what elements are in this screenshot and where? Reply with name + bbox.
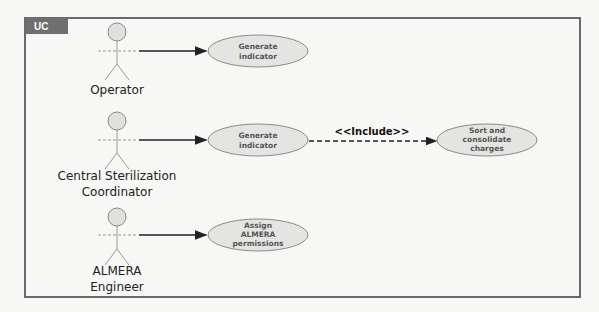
- usecase-text-line: permissions: [233, 239, 285, 248]
- usecase-text-line: indicator: [239, 52, 277, 61]
- actor-label-line-1: ALMERA: [93, 264, 143, 278]
- usecase-generate-indicator-1[interactable]: Generate indicator: [208, 35, 308, 67]
- usecase-assign-almera-permissions[interactable]: Assign ALMERA permissions: [208, 219, 308, 251]
- actor-label-line-1: Central Sterilization: [58, 169, 177, 183]
- uc-frame: UC: [25, 18, 580, 297]
- usecase-text-line: ALMERA: [241, 230, 276, 239]
- stick-figure-icon: [98, 112, 136, 169]
- actor-label-line-2: Coordinator: [82, 185, 153, 199]
- usecase-text-line: indicator: [239, 141, 277, 150]
- actor-label: Operator: [90, 83, 144, 97]
- actor-central-sterilization-coordinator[interactable]: Central Sterilization Coordinator: [58, 112, 177, 199]
- usecase-generate-indicator-2[interactable]: Generate indicator: [208, 124, 308, 156]
- include-label: <<Include>>: [335, 126, 410, 137]
- usecase-text-line: Generate: [238, 42, 277, 51]
- actor-operator[interactable]: Operator: [90, 23, 144, 97]
- actor-almera-engineer[interactable]: ALMERA Engineer: [90, 208, 144, 294]
- usecase-sort-consolidate-charges[interactable]: Sort and consolidate charges: [437, 124, 537, 156]
- usecase-text-line: Assign: [244, 221, 272, 230]
- usecase-text-line: consolidate: [463, 135, 512, 144]
- usecase-text-line: charges: [470, 144, 504, 153]
- actor-label-line-2: Engineer: [90, 280, 144, 294]
- usecase-text-line: Sort and: [469, 126, 505, 135]
- stick-figure-icon: [98, 208, 136, 265]
- stick-figure-icon: [98, 23, 136, 80]
- include-relation: <<Include>>: [309, 126, 436, 141]
- uc-frame-label: UC: [34, 21, 48, 32]
- usecase-text-line: Generate: [238, 131, 277, 140]
